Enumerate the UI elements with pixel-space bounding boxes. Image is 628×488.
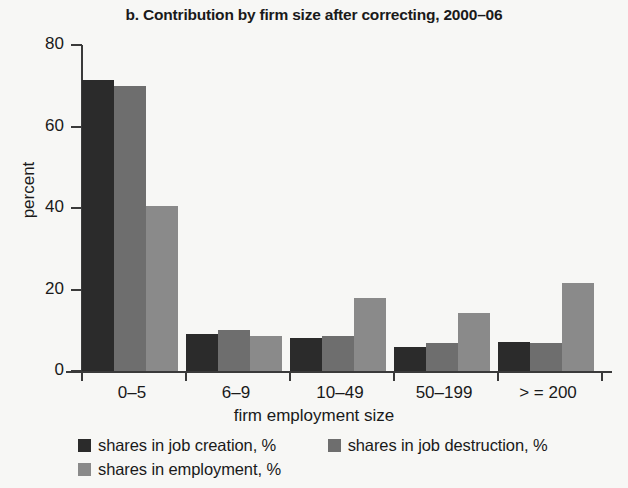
legend-swatch-job-destruction bbox=[328, 439, 341, 452]
legend-item-employment: shares in employment, % bbox=[78, 460, 281, 479]
x-axis-tick bbox=[601, 371, 603, 381]
y-axis-tick bbox=[71, 289, 82, 291]
x-axis-tick bbox=[289, 371, 291, 381]
y-axis-tick bbox=[71, 44, 82, 46]
legend-swatch-employment bbox=[78, 463, 91, 476]
x-axis-title: firm employment size bbox=[0, 406, 628, 426]
bar bbox=[530, 343, 562, 371]
y-axis-tick bbox=[71, 207, 82, 209]
bar bbox=[322, 336, 354, 371]
figure-panel-b: b. Contribution by firm size after corre… bbox=[0, 0, 628, 488]
legend-label-employment: shares in employment, % bbox=[98, 460, 281, 479]
bar bbox=[426, 343, 458, 371]
x-axis-tick-label: 6–9 bbox=[176, 383, 296, 403]
x-axis-tick-label: 10–49 bbox=[280, 383, 400, 403]
legend-swatch-job-creation bbox=[78, 439, 91, 452]
bar bbox=[562, 283, 594, 371]
y-axis-tick-label: 20 bbox=[0, 279, 64, 299]
x-axis-tick-label: > = 200 bbox=[488, 383, 608, 403]
bar bbox=[82, 80, 114, 371]
bar bbox=[498, 342, 530, 371]
x-axis-tick bbox=[393, 371, 395, 381]
bar bbox=[186, 334, 218, 371]
y-axis-title: percent bbox=[19, 130, 39, 250]
x-axis-tick bbox=[185, 371, 187, 381]
x-axis-tick bbox=[81, 371, 83, 381]
bar bbox=[354, 298, 386, 371]
y-axis-tick bbox=[71, 126, 82, 128]
bar-group bbox=[394, 45, 494, 371]
bar bbox=[458, 313, 490, 371]
chart-title: b. Contribution by firm size after corre… bbox=[0, 6, 628, 24]
bar-group bbox=[498, 45, 598, 371]
x-axis-tick bbox=[497, 371, 499, 381]
x-axis-line bbox=[66, 371, 612, 373]
bar-group bbox=[82, 45, 182, 371]
y-axis-tick-label: 0 bbox=[0, 360, 64, 380]
chart-legend: shares in job creation, % shares in job … bbox=[78, 436, 618, 484]
bar bbox=[146, 206, 178, 371]
plot-area bbox=[82, 45, 602, 371]
bar bbox=[290, 338, 322, 371]
x-axis-tick-label: 0–5 bbox=[72, 383, 192, 403]
legend-item-job-destruction: shares in job destruction, % bbox=[328, 436, 548, 455]
legend-row-1: shares in job creation, % shares in job … bbox=[78, 436, 618, 460]
bar bbox=[218, 330, 250, 371]
legend-item-job-creation: shares in job creation, % bbox=[78, 436, 276, 455]
legend-row-2: shares in employment, % bbox=[78, 460, 618, 484]
legend-label-job-destruction: shares in job destruction, % bbox=[348, 436, 548, 455]
bar bbox=[114, 86, 146, 371]
y-axis-tick-label: 80 bbox=[0, 34, 64, 54]
bar-group bbox=[186, 45, 286, 371]
x-axis-tick-label: 50–199 bbox=[384, 383, 504, 403]
bar-group bbox=[290, 45, 390, 371]
bar bbox=[394, 347, 426, 371]
legend-label-job-creation: shares in job creation, % bbox=[98, 436, 276, 455]
bar bbox=[250, 336, 282, 371]
